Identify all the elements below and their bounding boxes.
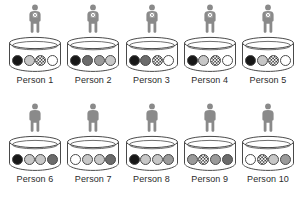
- person-label: Person 1: [17, 75, 54, 86]
- ball-checkered: [152, 55, 163, 66]
- person-group: Person 8: [125, 103, 179, 185]
- person-label: Person 8: [133, 174, 170, 185]
- urn-cylinder: [241, 135, 295, 172]
- ball-dark-gray: [82, 55, 93, 66]
- ball-set: [187, 53, 233, 67]
- ball-set: [129, 152, 175, 166]
- ball-light-gray: [82, 154, 93, 165]
- ball-black: [129, 55, 140, 66]
- person-group: Person 4: [183, 4, 237, 86]
- person-label: Person 5: [250, 75, 287, 86]
- top-row: Person 1Person 2Person 3Person 4Person 5: [0, 4, 303, 86]
- ball-checkered: [257, 154, 268, 165]
- person-icon: [201, 103, 219, 133]
- ball-dark-gray: [105, 154, 116, 165]
- person-icon: [259, 103, 277, 133]
- ball-checkered: [35, 55, 46, 66]
- ball-checkered: [198, 154, 209, 165]
- ball-white: [222, 55, 233, 66]
- urn-cylinder: [8, 135, 62, 172]
- person-group: Person 10: [241, 103, 295, 185]
- person-group: Person 2: [66, 4, 120, 86]
- ball-set: [70, 53, 116, 67]
- ball-checkered: [268, 55, 279, 66]
- person-icon: [143, 4, 161, 34]
- person-group: Person 7: [66, 103, 120, 185]
- person-group: Person 9: [183, 103, 237, 185]
- urn-cylinder: [125, 36, 179, 73]
- person-icon: [26, 4, 44, 34]
- ball-set: [187, 152, 233, 166]
- ball-set: [245, 53, 291, 67]
- ball-gray: [94, 55, 105, 66]
- ball-light-gray: [152, 154, 163, 165]
- person-label: Person 7: [75, 174, 112, 185]
- ball-set: [129, 53, 175, 67]
- ball-black: [70, 55, 81, 66]
- urn-cylinder: [66, 135, 120, 172]
- ball-black: [187, 55, 198, 66]
- ball-light-gray: [94, 154, 105, 165]
- urn-cylinder: [8, 36, 62, 73]
- urn-cylinder: [183, 135, 237, 172]
- person-group: Person 6: [8, 103, 62, 185]
- ball-dark-gray: [47, 154, 58, 165]
- ball-light-gray: [24, 154, 35, 165]
- ball-light-gray: [140, 154, 151, 165]
- ball-white: [163, 55, 174, 66]
- urn-cylinder: [183, 36, 237, 73]
- person-group: Person 1: [8, 4, 62, 86]
- ball-black: [12, 55, 23, 66]
- ball-gray: [210, 154, 221, 165]
- ball-set: [245, 152, 291, 166]
- ball-light-gray: [198, 55, 209, 66]
- ball-white: [47, 55, 58, 66]
- person-icon: [84, 4, 102, 34]
- ball-gray: [163, 154, 174, 165]
- person-icon: [84, 103, 102, 133]
- person-icon: [201, 4, 219, 34]
- ball-light-gray: [35, 154, 46, 165]
- person-label: Person 6: [17, 174, 54, 185]
- ball-black: [12, 154, 23, 165]
- person-label: Person 2: [75, 75, 112, 86]
- urn-cylinder: [66, 36, 120, 73]
- person-label: Person 9: [191, 174, 228, 185]
- ball-white: [280, 55, 291, 66]
- ball-white: [245, 154, 256, 165]
- ball-light-gray: [105, 55, 116, 66]
- bottom-row: Person 6Person 7Person 8Person 9Person 1…: [0, 103, 303, 185]
- person-group: Person 5: [241, 4, 295, 86]
- ball-white: [70, 154, 81, 165]
- person-group: Person 3: [125, 4, 179, 86]
- ball-gray: [280, 154, 291, 165]
- ball-black: [245, 55, 256, 66]
- ball-set: [12, 53, 58, 67]
- person-label: Person 4: [191, 75, 228, 86]
- ball-checkered: [210, 55, 221, 66]
- person-icon: [259, 4, 277, 34]
- ball-dark-gray: [222, 154, 233, 165]
- person-label: Person 3: [133, 75, 170, 86]
- ball-black: [129, 154, 140, 165]
- ball-light-gray: [268, 154, 279, 165]
- ball-set: [70, 152, 116, 166]
- ball-dark-gray: [140, 55, 151, 66]
- urn-sampling-diagram: Person 1Person 2Person 3Person 4Person 5…: [0, 0, 303, 204]
- person-icon: [143, 103, 161, 133]
- ball-light-gray: [24, 55, 35, 66]
- person-icon: [26, 103, 44, 133]
- ball-light-gray: [257, 55, 268, 66]
- ball-set: [12, 152, 58, 166]
- ball-gray: [187, 154, 198, 165]
- person-label: Person 10: [247, 174, 289, 185]
- urn-cylinder: [241, 36, 295, 73]
- urn-cylinder: [125, 135, 179, 172]
